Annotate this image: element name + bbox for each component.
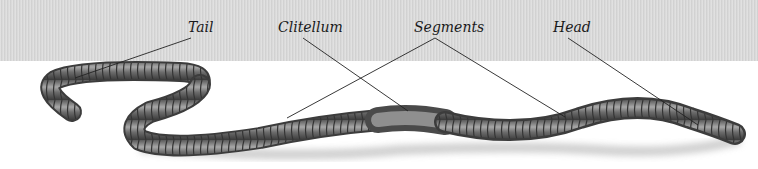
- earthworm-illustration: [0, 0, 758, 169]
- earthworm-diagram: Tail Clitellum Segments Head: [0, 0, 758, 169]
- label-head: Head: [553, 20, 591, 34]
- label-clitellum: Clitellum: [278, 20, 343, 34]
- leader-segments-right: [435, 38, 565, 117]
- leader-clitellum: [303, 38, 408, 111]
- label-segments: Segments: [414, 20, 484, 34]
- label-tail: Tail: [188, 20, 214, 34]
